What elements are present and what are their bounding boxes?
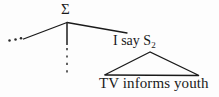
constituent-triangle: [105, 52, 200, 76]
right-branch-line: [67, 23, 127, 34]
left-branch-line: [24, 23, 68, 40]
sigma-root-label: Σ: [61, 2, 70, 17]
clause-label-main: I say S: [113, 33, 151, 48]
syntax-tree-figure: Σ I say S2 TV informs youth: [0, 0, 219, 97]
ellipsis-dot-3: [20, 37, 23, 40]
clause-node-label: I say S2: [113, 34, 156, 48]
terminal-string-label: TV informs youth: [99, 76, 209, 91]
ellipsis-dot-2: [14, 38, 17, 41]
clause-label-subscript: 2: [151, 40, 156, 50]
ellipsis-dot-1: [8, 39, 11, 42]
